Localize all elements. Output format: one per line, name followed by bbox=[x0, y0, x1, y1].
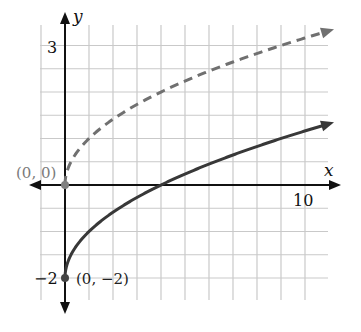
x-axis-label: x bbox=[324, 160, 334, 180]
y-tick-neg2: −2 bbox=[34, 269, 58, 288]
origin-point-label: (0, 0) bbox=[16, 164, 56, 182]
y-axis-up-arrow-icon bbox=[60, 12, 70, 24]
origin-point bbox=[61, 181, 69, 189]
x-tick-10: 10 bbox=[293, 191, 313, 210]
start-point-label: (0, −2) bbox=[76, 270, 129, 288]
y-tick-3: 3 bbox=[47, 38, 57, 57]
dashed-curve-arrowhead bbox=[320, 28, 334, 39]
x-axis-right-arrow-icon bbox=[329, 180, 341, 190]
grid bbox=[40, 25, 328, 300]
coordinate-plane: y x 10 3 −2 (0, 0) (0, −2) bbox=[0, 0, 361, 332]
solid-curve-arrowhead bbox=[320, 121, 334, 132]
y-axis-down-arrow-icon bbox=[60, 302, 70, 314]
y-axis-label: y bbox=[72, 6, 83, 26]
start-point bbox=[61, 274, 69, 282]
